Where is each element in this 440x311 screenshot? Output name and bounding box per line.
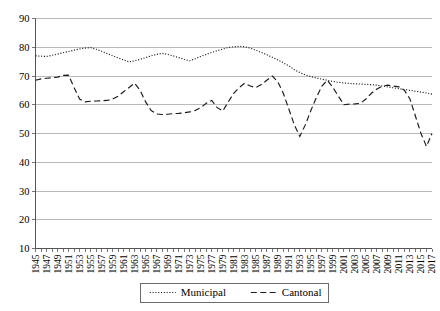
x-tick-label: 1991 — [284, 254, 294, 273]
x-tick-label: 2003 — [350, 254, 360, 273]
series-line-municipal — [36, 46, 433, 94]
x-tick-label: 1963 — [130, 254, 140, 273]
y-tick-label: 10 — [19, 243, 30, 254]
x-tick-label: 1971 — [174, 254, 184, 273]
x-axis-tick-marks — [36, 249, 433, 253]
y-tick-label: 30 — [19, 186, 30, 197]
x-tick-label: 1969 — [163, 254, 173, 273]
x-tick-label: 2015 — [416, 254, 426, 273]
y-tick-label: 40 — [19, 157, 30, 168]
x-tick-label: 2005 — [361, 254, 371, 273]
x-tick-label: 1947 — [42, 254, 52, 273]
x-tick-label: 2007 — [372, 254, 382, 273]
x-tick-label: 1983 — [240, 254, 250, 273]
x-tick-label: 1949 — [53, 254, 63, 273]
x-tick-label: 1973 — [185, 254, 195, 273]
chart-container: 102030405060708090 194519471949195119531… — [0, 0, 440, 311]
x-tick-label: 2009 — [383, 254, 393, 273]
y-tick-label: 70 — [19, 71, 30, 82]
x-tick-label: 1993 — [295, 254, 305, 273]
y-axis-tick-labels: 102030405060708090 — [19, 13, 30, 254]
x-tick-label: 2017 — [427, 254, 437, 273]
y-tick-label: 20 — [19, 214, 30, 225]
x-tick-label: 1951 — [64, 254, 74, 273]
chart-legend: MunicipalCantonal — [141, 283, 329, 302]
x-tick-label: 1953 — [75, 254, 85, 273]
x-tick-label: 1989 — [273, 254, 283, 273]
x-axis-tick-labels: 1945194719491951195319551957195919611963… — [31, 254, 438, 273]
line-chart: 102030405060708090 194519471949195119531… — [0, 0, 440, 311]
x-tick-label: 1945 — [31, 254, 41, 273]
x-tick-label: 1961 — [119, 254, 129, 273]
x-tick-label: 1975 — [196, 254, 206, 273]
x-tick-label: 1979 — [218, 254, 228, 273]
x-tick-label: 1985 — [251, 254, 261, 273]
x-tick-label: 2011 — [394, 254, 404, 273]
y-tick-label: 50 — [19, 128, 30, 139]
x-tick-label: 1977 — [207, 254, 217, 273]
x-tick-label: 1999 — [328, 254, 338, 273]
y-tick-label: 60 — [19, 99, 30, 110]
x-tick-label: 2013 — [405, 254, 415, 273]
y-tick-label: 80 — [19, 42, 30, 53]
x-tick-label: 1967 — [152, 254, 162, 273]
y-tick-label: 90 — [19, 13, 30, 24]
x-tick-label: 1997 — [317, 254, 327, 273]
legend-label-municipal: Municipal — [181, 286, 226, 298]
x-tick-label: 1987 — [262, 254, 272, 273]
x-tick-label: 2001 — [339, 254, 349, 273]
x-tick-label: 1959 — [108, 254, 118, 273]
series-line-cantonal — [36, 75, 433, 146]
x-tick-label: 1981 — [229, 254, 239, 273]
legend-label-cantonal: Cantonal — [282, 286, 322, 298]
x-tick-label: 1995 — [306, 254, 316, 273]
x-tick-label: 1957 — [97, 254, 107, 273]
gridlines-group — [32, 19, 432, 249]
x-tick-label: 1955 — [86, 254, 96, 273]
x-tick-label: 1965 — [141, 254, 151, 273]
